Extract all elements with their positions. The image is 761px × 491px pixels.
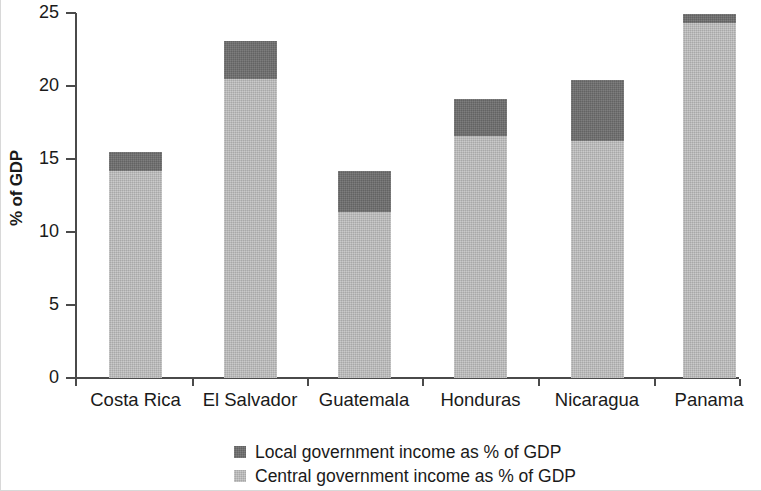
bar-stack [338, 171, 391, 378]
bar-segment-local-government [454, 99, 507, 136]
bar-segment-central-government [224, 79, 277, 378]
y-tick-mark [66, 231, 76, 233]
bar-stack [683, 14, 736, 378]
x-tick-mark [739, 379, 741, 386]
bar-segment-local-government [683, 14, 736, 23]
bar-stack [571, 80, 624, 378]
legend-label: Central government income as % of GDP [255, 466, 576, 486]
y-tick-label: 20 [15, 76, 59, 94]
legend-label: Local government income as % of GDP [255, 442, 561, 462]
bar-stack [109, 152, 162, 378]
y-tick-mark [66, 304, 76, 306]
x-tick-mark [192, 379, 194, 386]
page-edge-left [0, 0, 1, 491]
x-tick-mark [422, 379, 424, 386]
legend-item: Local government income as % of GDP [234, 440, 576, 464]
x-tick-mark [538, 379, 540, 386]
bar-segment-local-government [224, 41, 277, 79]
x-tick-mark [654, 379, 656, 386]
y-tick-label: 15 [15, 149, 59, 167]
bar-segment-central-government [109, 171, 162, 378]
x-tick-mark [75, 379, 77, 386]
bar-stack [224, 41, 277, 378]
bar-segment-central-government [338, 212, 391, 378]
x-axis-line [75, 377, 739, 379]
y-tick-label: 10 [15, 222, 59, 240]
y-tick-label: 5 [15, 295, 59, 313]
legend: Local government income as % of GDPCentr… [234, 440, 576, 488]
bar-segment-central-government [454, 136, 507, 378]
bar-stack [454, 99, 507, 378]
bar-chart: % of GDP 0510152025 Costa RicaEl Salvado… [0, 0, 761, 491]
y-axis-line [75, 13, 77, 379]
legend-swatch-icon [234, 446, 246, 458]
y-tick-mark [66, 158, 76, 160]
y-tick-mark [66, 12, 76, 14]
bar-segment-local-government [338, 171, 391, 212]
bar-segment-central-government [683, 23, 736, 378]
y-tick-label: 25 [15, 3, 59, 21]
bar-segment-local-government [571, 80, 624, 141]
x-tick-mark [307, 379, 309, 386]
y-tick-mark [66, 85, 76, 87]
y-tick-label: 0 [15, 368, 59, 386]
bar-segment-local-government [109, 152, 162, 171]
bar-segment-central-government [571, 141, 624, 378]
legend-swatch-icon [234, 470, 246, 482]
x-axis-category-label: Panama [619, 389, 761, 411]
legend-item: Central government income as % of GDP [234, 464, 576, 488]
